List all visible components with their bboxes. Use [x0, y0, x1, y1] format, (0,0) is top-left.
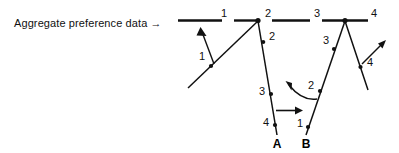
up-right-arrow-icon [362, 40, 386, 64]
right-falling-tick-4 [358, 65, 362, 69]
endpoint-label-a: A [273, 137, 282, 151]
left-falling-label-2: 2 [269, 30, 275, 42]
right-apex-node [342, 18, 347, 23]
left-rising-tick-1 [209, 64, 213, 68]
curved-left-arrow-head [286, 81, 293, 91]
right-rising-line-group: 1 2 3 [297, 21, 345, 135]
right-rising-label-1: 1 [297, 117, 303, 129]
up-left-arrow-head [197, 27, 207, 36]
diagram-canvas: Aggregate preference data → 1 2 3 4 1 [0, 0, 399, 153]
right-rising-label-3: 3 [323, 34, 329, 46]
left-falling-label-3: 3 [259, 85, 265, 97]
right-rising-tick-1 [306, 125, 310, 129]
left-falling-tick-4 [273, 123, 277, 127]
left-falling-label-4: 4 [263, 116, 269, 128]
left-falling-line-group: 2 3 4 [255, 18, 277, 135]
top-bar-label-1: 1 [221, 7, 227, 19]
left-rising-line-group: 1 [188, 21, 258, 88]
right-arrow-head [295, 107, 303, 115]
top-bar-label-3: 3 [314, 7, 320, 19]
top-bar-label-4: 4 [371, 7, 377, 19]
preference-zigzag-diagram: 1 2 3 4 1 2 3 4 1 [0, 0, 399, 153]
left-falling-tick-2 [261, 40, 265, 44]
left-falling-tick-3 [269, 92, 273, 96]
top-bar-label-2: 2 [265, 7, 271, 19]
left-apex-node [255, 18, 260, 23]
right-arrow-icon [276, 107, 303, 115]
right-rising-tick-2 [318, 89, 322, 93]
right-falling-line-group: 4 [342, 18, 373, 90]
right-falling-line [345, 21, 368, 90]
endpoint-label-b: B [302, 137, 311, 151]
right-rising-tick-3 [332, 47, 336, 51]
right-rising-label-2: 2 [308, 79, 314, 91]
left-rising-label-1: 1 [199, 50, 205, 62]
